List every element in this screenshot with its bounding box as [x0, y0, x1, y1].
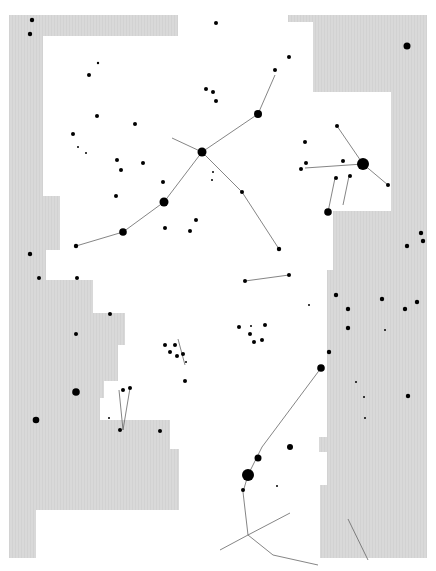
star-chart — [0, 0, 436, 571]
